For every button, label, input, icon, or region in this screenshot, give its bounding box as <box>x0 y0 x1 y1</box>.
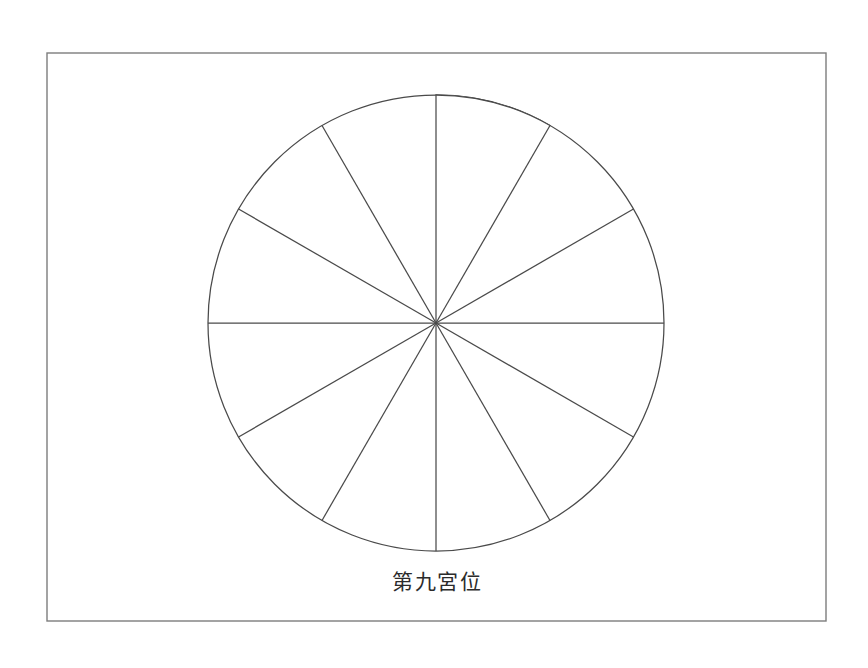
wheel-group <box>208 95 664 551</box>
figure-root: 第九宮位 <box>0 0 868 668</box>
figure-caption: 第九宮位 <box>392 570 482 594</box>
pie-wheel-diagram: 第九宮位 <box>0 0 868 668</box>
